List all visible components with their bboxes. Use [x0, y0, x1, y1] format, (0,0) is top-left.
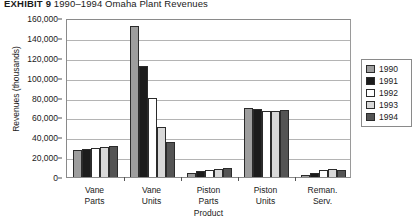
- x-category-label: PistonParts: [197, 185, 221, 206]
- exhibit-chart-page: EXHIBIT 9 1990–1994 Omaha Plant Revenues…: [0, 0, 417, 223]
- legend-item[interactable]: 1991: [366, 75, 408, 87]
- bar[interactable]: [73, 150, 82, 177]
- bar[interactable]: [91, 148, 100, 177]
- legend-swatch-icon: [366, 101, 375, 109]
- bar-group: [67, 20, 124, 177]
- legend-item[interactable]: 1993: [366, 99, 408, 111]
- bar[interactable]: [148, 98, 157, 178]
- bar-group: [238, 20, 295, 177]
- x-category-label-line: Serv.: [308, 196, 338, 207]
- y-tick-mark: [58, 98, 62, 99]
- bar[interactable]: [262, 111, 271, 177]
- y-tick-mark: [58, 19, 62, 20]
- y-tick-label: 60,000: [32, 113, 58, 123]
- bar-group: [124, 20, 181, 177]
- legend-label: 1992: [379, 88, 398, 98]
- bar[interactable]: [205, 170, 214, 177]
- legend-item[interactable]: 1992: [366, 87, 408, 99]
- x-tick-mark: [124, 177, 125, 181]
- bar[interactable]: [157, 127, 166, 177]
- legend-item[interactable]: 1994: [366, 111, 408, 123]
- x-axis-tick-labels: VanePartsVaneUnitsPistonPartsPistonUnits…: [66, 185, 351, 209]
- x-category-label-line: Piston: [197, 185, 221, 196]
- bar-group: [295, 20, 352, 177]
- bar-group: [181, 20, 238, 177]
- bar[interactable]: [130, 26, 139, 177]
- x-category-label-line: Reman.: [308, 185, 338, 196]
- y-tick-mark: [58, 118, 62, 119]
- legend-label: 1994: [379, 112, 398, 122]
- y-tick-mark: [58, 158, 62, 159]
- bar[interactable]: [280, 110, 289, 177]
- exhibit-title: EXHIBIT 9 1990–1994 Omaha Plant Revenues: [4, 0, 404, 10]
- legend-label: 1991: [379, 76, 398, 86]
- x-category-label-line: Units: [142, 196, 161, 207]
- x-category-label-line: Parts: [197, 196, 221, 207]
- bar[interactable]: [328, 169, 337, 177]
- legend-swatch-icon: [366, 113, 375, 121]
- y-tick-label: 160,000: [27, 14, 58, 24]
- bar[interactable]: [244, 108, 253, 177]
- x-category-label: VaneUnits: [142, 185, 161, 206]
- bar[interactable]: [253, 109, 262, 177]
- y-tick-label: 20,000: [32, 153, 58, 163]
- y-tick-mark: [58, 38, 62, 39]
- bar-chart: Revenues (thousands) 020,00040,00060,000…: [0, 12, 417, 223]
- x-category-label: VaneParts: [85, 185, 105, 206]
- legend-swatch-icon: [366, 77, 375, 85]
- y-tick-mark: [58, 58, 62, 59]
- bar[interactable]: [271, 111, 280, 177]
- exhibit-caption: 1990–1994 Omaha Plant Revenues: [54, 0, 208, 9]
- bar[interactable]: [301, 175, 310, 177]
- bar[interactable]: [139, 66, 148, 177]
- bar[interactable]: [196, 171, 205, 177]
- x-tick-mark: [295, 177, 296, 181]
- x-tick-mark: [181, 177, 182, 181]
- bar[interactable]: [337, 170, 346, 177]
- bar[interactable]: [319, 170, 328, 177]
- legend-swatch-icon: [366, 89, 375, 97]
- y-tick-label: 120,000: [27, 54, 58, 64]
- y-tick-label: 140,000: [27, 34, 58, 44]
- bar[interactable]: [166, 142, 175, 177]
- bar[interactable]: [310, 173, 319, 177]
- x-category-label-line: Parts: [85, 196, 105, 207]
- x-tick-mark: [238, 177, 239, 181]
- y-tick-label: 40,000: [32, 133, 58, 143]
- y-tick-label: 100,000: [27, 74, 58, 84]
- bar[interactable]: [82, 149, 91, 177]
- exhibit-number: EXHIBIT 9: [4, 0, 51, 9]
- y-axis-tick-labels: 020,00040,00060,00080,000100,000120,0001…: [16, 12, 62, 178]
- x-category-label-line: Piston: [254, 185, 278, 196]
- x-category-label-line: Vane: [85, 185, 105, 196]
- y-tick-mark: [58, 178, 62, 179]
- y-tick-mark: [58, 138, 62, 139]
- bar[interactable]: [223, 168, 232, 177]
- legend-label: 1990: [379, 64, 398, 74]
- x-axis-title: Product: [66, 208, 351, 218]
- y-tick-label: 80,000: [32, 94, 58, 104]
- bar[interactable]: [100, 147, 109, 177]
- legend: 19901991199219931994: [361, 59, 412, 127]
- bar[interactable]: [214, 169, 223, 177]
- x-category-label: PistonUnits: [254, 185, 278, 206]
- legend-swatch-icon: [366, 65, 375, 73]
- x-category-label-line: Vane: [142, 185, 161, 196]
- x-category-label: Reman.Serv.: [308, 185, 338, 206]
- legend-label: 1993: [379, 100, 398, 110]
- legend-item[interactable]: 1990: [366, 63, 408, 75]
- y-tick-mark: [58, 78, 62, 79]
- bar[interactable]: [109, 146, 118, 177]
- plot-area: [66, 19, 351, 178]
- bar[interactable]: [187, 173, 196, 177]
- x-category-label-line: Units: [254, 196, 278, 207]
